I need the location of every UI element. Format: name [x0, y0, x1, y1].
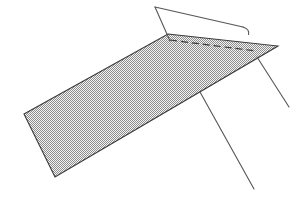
right-support-leg [257, 57, 289, 107]
figure-canvas [0, 0, 303, 198]
apex-line-hook-curve [243, 27, 249, 35]
apex-upper-long-line [155, 7, 243, 27]
apex-to-slab-edge-line [155, 7, 170, 41]
hatched-parallelogram [24, 34, 278, 177]
technical-line-drawing [0, 0, 303, 198]
left-support-leg [200, 92, 254, 189]
